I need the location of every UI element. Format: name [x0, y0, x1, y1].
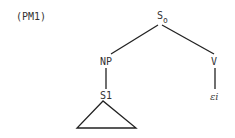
- node-np: NP: [100, 56, 112, 67]
- triangle-s1: [77, 101, 136, 128]
- node-s0-subscript: o: [163, 16, 168, 25]
- node-v: V: [211, 56, 217, 67]
- syntax-tree-diagram: (PM1) S o NP S1 V εi: [0, 0, 235, 138]
- node-s0: S o: [157, 10, 168, 25]
- edge-s0-np: [111, 25, 158, 54]
- node-ei: εi: [210, 91, 219, 102]
- edge-s0-v: [162, 25, 214, 54]
- diagram-label: (PM1): [16, 11, 46, 22]
- node-s1: S1: [100, 90, 112, 101]
